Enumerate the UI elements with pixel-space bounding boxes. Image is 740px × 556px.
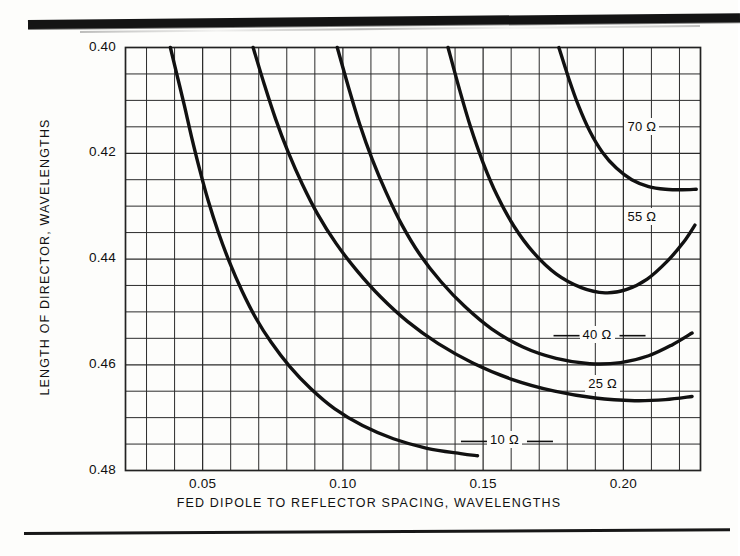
curve-label-70-ohm: 70 Ω (624, 118, 659, 135)
x-tick-label: 0.15 (448, 476, 518, 491)
y-tick-label: 0.40 (58, 39, 116, 54)
y-axis-title: LENGTH OF DIRECTOR, WAVELENGTHS (38, 57, 52, 457)
x-axis-title: FED DIPOLE TO REFLECTOR SPACING, WAVELEN… (0, 496, 738, 510)
x-tick-label: 0.05 (168, 476, 238, 491)
curve-label-55-ohm: 55 Ω (624, 208, 659, 225)
curve-label-25-ohm: 25 Ω (585, 375, 620, 392)
curve-label-40-ohm: 40 Ω (580, 326, 615, 343)
y-tick-label: 0.46 (58, 356, 116, 371)
curve-10-ohm (170, 48, 477, 456)
data-curves (170, 48, 696, 456)
y-tick-label: 0.42 (58, 144, 116, 159)
y-tick-label: 0.48 (58, 462, 116, 477)
x-tick-label: 0.20 (588, 476, 658, 491)
curve-label-10-ohm: 10 Ω (487, 431, 522, 448)
x-tick-label: 0.10 (308, 476, 378, 491)
y-tick-label: 0.44 (58, 250, 116, 265)
